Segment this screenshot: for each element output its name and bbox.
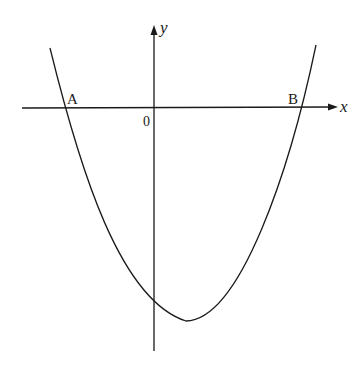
x-axis — [22, 107, 332, 108]
parabola-curve — [50, 45, 316, 321]
origin-label: 0 — [143, 114, 150, 129]
y-axis-arrow-icon — [151, 25, 158, 35]
parabola-diagram: y x 0 A B — [0, 0, 364, 368]
x-axis-label: x — [339, 97, 348, 116]
point-b-label: B — [288, 91, 298, 107]
x-axis-arrow-icon — [328, 104, 338, 111]
point-a-label: A — [67, 91, 78, 107]
y-axis-label: y — [158, 18, 168, 37]
